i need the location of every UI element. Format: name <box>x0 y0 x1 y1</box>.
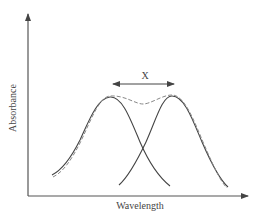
band-2-curve <box>119 96 228 187</box>
separation-label: X <box>141 70 149 81</box>
absorbance-diagram: Absorbance Wavelength X <box>0 0 260 219</box>
x-axis-label: Wavelength <box>116 200 164 211</box>
band-1-curve <box>52 97 170 186</box>
y-axis-label: Absorbance <box>7 84 18 132</box>
